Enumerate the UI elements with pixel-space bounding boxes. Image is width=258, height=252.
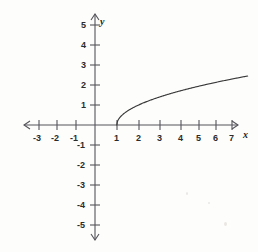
y-tick-label: -5 <box>77 221 85 230</box>
x-tick-label: 2 <box>136 134 141 143</box>
x-tick-label: 4 <box>178 134 183 143</box>
curve-sqrt-x-minus-1 <box>117 76 248 125</box>
y-axis <box>91 14 99 240</box>
x-tick-label: 5 <box>196 134 201 143</box>
x-axis-label: x <box>243 130 248 140</box>
y-tick-label: 5 <box>81 21 86 30</box>
y-tick-label: 4 <box>81 41 86 50</box>
x-tick-label: 7 <box>229 134 234 143</box>
y-axis-label: y <box>100 17 104 27</box>
x-tick-label: 3 <box>157 134 162 143</box>
x-tick-label: 1 <box>114 134 119 143</box>
coordinate-plane <box>0 0 258 252</box>
y-tick-label: -1 <box>77 141 85 150</box>
y-tick-label: 3 <box>81 61 86 70</box>
y-tick-label: 2 <box>81 81 86 90</box>
y-tick-label: -3 <box>77 181 85 190</box>
x-tick-label: -3 <box>33 134 41 143</box>
y-tick-label: -2 <box>77 161 85 170</box>
y-tick-label: 1 <box>81 101 86 110</box>
graph-figure: -3 -2 -1 1 2 3 4 5 6 7 5 4 3 2 1 -1 -2 -… <box>0 0 258 252</box>
x-tick-label: 6 <box>213 134 218 143</box>
y-tick-label: -4 <box>77 201 85 210</box>
x-tick-label: -2 <box>51 134 59 143</box>
x-axis <box>24 121 238 129</box>
